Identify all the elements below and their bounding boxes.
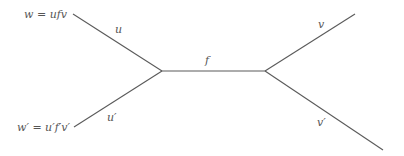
edge-label-u: u bbox=[115, 23, 122, 36]
edge-label-v-prime: v′ bbox=[317, 116, 326, 129]
diagram-canvas: w = ufv w′ = u′f′v′ u u′ f v v′ bbox=[0, 0, 404, 156]
diagram-svg: w = ufv w′ = u′f′v′ u u′ f v v′ bbox=[0, 0, 404, 156]
edge-label-u-prime: u′ bbox=[107, 111, 117, 124]
edge-v bbox=[265, 14, 355, 71]
edge-label-f: f bbox=[204, 54, 211, 67]
edge-v-prime bbox=[265, 71, 383, 150]
edge-label-v: v bbox=[318, 18, 325, 31]
node-label-w-prime: w′ = u′f′v′ bbox=[17, 121, 70, 134]
node-label-w: w = ufv bbox=[24, 8, 68, 21]
edge-u-prime bbox=[74, 71, 162, 127]
